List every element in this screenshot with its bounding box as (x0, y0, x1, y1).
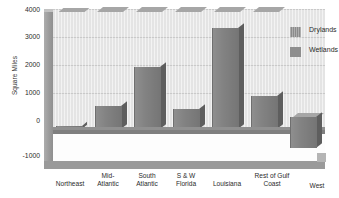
bar-top-face (175, 7, 207, 12)
x-axis-labels: Northeast Mid- Atlantic South Atlantic S… (44, 170, 334, 198)
x-label-rest-of-gulf-coast: Rest of Gulf Coast (242, 172, 302, 187)
y-tick-2000: 2000 (14, 61, 40, 68)
x-label-west: West (294, 182, 339, 190)
bar-front-face (173, 109, 200, 129)
y-tick-neg1000: -1000 (14, 152, 40, 159)
bar-top-face (136, 7, 168, 12)
legend-item-wetlands[interactable]: Wetlands (290, 45, 339, 65)
y-tick-4000: 4000 (14, 6, 40, 13)
bar-south-atlantic (134, 9, 160, 129)
wetlands-swatch-icon (290, 47, 301, 57)
bar-northeast (56, 9, 82, 129)
plot-bottom-floor (44, 161, 325, 169)
bar-rest-of-gulf-coast (251, 9, 277, 129)
y-axis-ticks: 4000 3000 2000 1000 0 -1000 (14, 0, 40, 198)
plot-left-wall (44, 9, 53, 161)
plot-floor-corner (317, 153, 326, 162)
bar-top-face (253, 7, 285, 12)
plot-area: Drylands Wetlands (44, 9, 325, 169)
bar-chart: Square Miles 4000 3000 2000 1000 0 -1000 (0, 0, 339, 198)
drylands-swatch-icon (290, 27, 301, 37)
y-tick-1000: 1000 (14, 89, 40, 96)
legend-item-drylands[interactable]: Drylands (290, 25, 339, 45)
y-tick-3000: 3000 (14, 33, 40, 40)
bar-top-face (59, 8, 90, 12)
bar-top-face (97, 7, 129, 12)
bar-sw-florida (173, 9, 199, 129)
bar-mid-atlantic (95, 9, 121, 129)
bar-west (290, 113, 316, 163)
legend-label-wetlands: Wetlands (309, 46, 338, 53)
bar-louisiana (212, 9, 238, 129)
bar-front-face (134, 67, 161, 129)
plot-left-wall-top (44, 9, 53, 12)
zero-plane-front-edge (52, 130, 325, 134)
legend-label-drylands: Drylands (309, 26, 337, 33)
y-tick-0: 0 (14, 117, 40, 124)
bars-layer (44, 9, 325, 169)
bar-front-face (212, 28, 239, 129)
bar-front-face (290, 117, 317, 148)
legend: Drylands Wetlands (290, 25, 339, 65)
bar-front-face (251, 96, 278, 129)
bar-front-face (95, 106, 122, 129)
bar-top-face (214, 7, 246, 12)
